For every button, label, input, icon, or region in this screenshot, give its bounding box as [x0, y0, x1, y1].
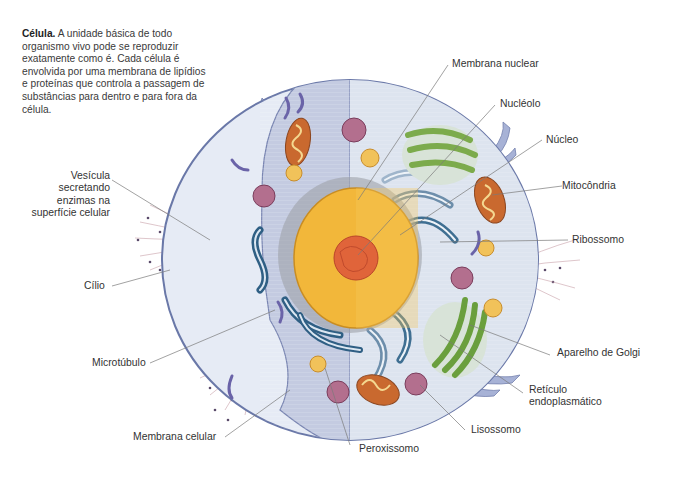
label-vesicula-line1: Vesícula	[31, 170, 110, 182]
label-aparelho-golgi: Aparelho de Golgi	[557, 347, 640, 359]
label-peroxissomo: Peroxissomo	[359, 443, 419, 455]
label-mitocondria: Mitocôndria	[562, 180, 616, 192]
label-vesicula: Vesícula secretando enzimas na superfíci…	[31, 170, 110, 220]
golgi-apparatus-upper	[402, 125, 478, 185]
label-ribossomo: Ribossomo	[572, 234, 624, 246]
label-reticulo-line2: endoplasmático	[529, 396, 602, 408]
label-vesicula-line4: superfície celular	[31, 207, 110, 219]
label-reticulo-line1: Retículo	[529, 384, 602, 396]
label-nucleolo: Nucléolo	[500, 98, 540, 110]
label-microtubulo: Microtúbulo	[92, 357, 146, 369]
label-lisossomo: Lisossomo	[471, 424, 521, 436]
nucleolus	[334, 236, 378, 280]
label-cilio: Cílio	[84, 280, 105, 292]
label-vesicula-line3: enzimas na	[31, 195, 110, 207]
label-vesicula-line2: secretando	[31, 182, 110, 194]
label-membrana-celular: Membrana celular	[133, 431, 216, 443]
label-membrana-nuclear: Membrana nuclear	[452, 58, 539, 70]
label-reticulo: Retículo endoplasmático	[529, 384, 602, 409]
label-nucleo: Núcleo	[546, 134, 578, 146]
